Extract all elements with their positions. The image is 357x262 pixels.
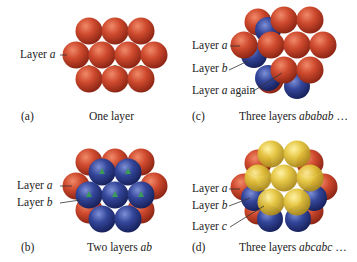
label-layer-b: Layer b <box>17 197 52 209</box>
caption-d: Three layers abcabc … <box>239 242 347 254</box>
label-layer-a: Layer a <box>192 40 227 52</box>
panel-tag-c: (c) <box>192 111 205 123</box>
label-layer-a-again: Layer a again <box>192 85 255 97</box>
panel-d-spheres <box>231 141 338 233</box>
panel-a-spheres <box>63 18 168 93</box>
label-layer-b: Layer b <box>192 200 227 212</box>
label-layer-a: Layer a <box>17 180 52 192</box>
label-layer-c: Layer c <box>192 221 227 233</box>
caption-c: Three layers ababab … <box>239 111 348 123</box>
sphere-packing-illustration <box>0 0 357 262</box>
caption-b: Two layers ab <box>87 242 152 254</box>
label-layer-b: Layer b <box>192 63 227 75</box>
panel-tag-b: (b) <box>21 242 34 254</box>
caption-a: One layer <box>89 111 134 123</box>
panel-tag-a: (a) <box>21 111 34 123</box>
label-layer-a: Layer a <box>20 49 55 61</box>
label-layer-a: Layer a <box>192 183 227 195</box>
panel-b-spheres <box>63 149 168 233</box>
panel-tag-d: (d) <box>192 242 205 254</box>
